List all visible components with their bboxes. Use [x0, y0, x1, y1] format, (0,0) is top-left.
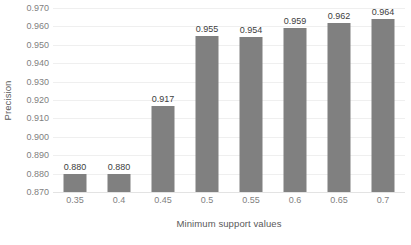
bar[interactable] [240, 37, 263, 192]
x-axis-tick-label: 0.4 [113, 195, 126, 205]
bar-value-label: 0.880 [108, 162, 131, 172]
y-axis-title: Precision [0, 0, 16, 200]
bar[interactable] [108, 174, 131, 192]
bar-group[interactable]: 0.880 [97, 8, 141, 192]
bar-group[interactable]: 0.954 [229, 8, 273, 192]
bar-group[interactable]: 0.917 [141, 8, 185, 192]
bar[interactable] [64, 174, 87, 192]
bar-value-label: 0.917 [152, 94, 175, 104]
y-axis-tick-label: 0.920 [15, 96, 49, 105]
y-axis-tick-label: 0.910 [15, 114, 49, 123]
bar-group[interactable]: 0.880 [53, 8, 97, 192]
bar[interactable] [152, 106, 175, 192]
bar[interactable] [328, 23, 351, 192]
bar-value-label: 0.962 [328, 11, 351, 21]
bar-value-label: 0.955 [196, 24, 219, 34]
y-axis-tick-label: 0.930 [15, 77, 49, 86]
x-axis-tick-label: 0.6 [289, 195, 302, 205]
plot-area: 0.8800.8800.9170.9550.9540.9590.9620.964 [53, 8, 405, 192]
x-axis-tick-label: 0.35 [66, 195, 84, 205]
bar-value-label: 0.959 [284, 16, 307, 26]
bar-chart: Precision 0.9700.9600.9500.9400.9300.920… [0, 0, 411, 245]
x-axis-tick-label: 0.5 [201, 195, 214, 205]
y-axis-tick-label: 0.900 [15, 132, 49, 141]
bars-layer: 0.8800.8800.9170.9550.9540.9590.9620.964 [53, 8, 405, 192]
x-axis-tick-label: 0.55 [242, 195, 260, 205]
x-axis-tick-label: 0.7 [377, 195, 390, 205]
y-axis-tick-label: 0.970 [15, 4, 49, 13]
x-axis-tick-label: 0.65 [330, 195, 348, 205]
bar-group[interactable]: 0.964 [361, 8, 405, 192]
y-axis-tick-label: 0.950 [15, 40, 49, 49]
y-axis-tick-label: 0.960 [15, 22, 49, 31]
bar[interactable] [372, 19, 395, 192]
y-axis-tick-label: 0.880 [15, 169, 49, 178]
x-axis-tick-labels: 0.350.40.450.50.550.60.650.7 [53, 195, 405, 211]
bar[interactable] [284, 28, 307, 192]
y-axis-title-label: Precision [3, 80, 14, 120]
y-axis-tick-label: 0.890 [15, 151, 49, 160]
bar-value-label: 0.964 [372, 7, 395, 17]
gridline [53, 192, 405, 193]
x-axis-title: Minimum support values [53, 218, 405, 229]
y-axis-tick-label: 0.870 [15, 188, 49, 197]
x-axis-tick-label: 0.45 [154, 195, 172, 205]
bar[interactable] [196, 36, 219, 192]
bar-value-label: 0.880 [64, 162, 87, 172]
bar-group[interactable]: 0.955 [185, 8, 229, 192]
x-axis-title-label: Minimum support values [176, 218, 281, 229]
y-axis-tick-labels: 0.9700.9600.9500.9400.9300.9200.9100.900… [16, 8, 52, 192]
bar-value-label: 0.954 [240, 25, 263, 35]
bar-group[interactable]: 0.962 [317, 8, 361, 192]
y-axis-tick-label: 0.940 [15, 59, 49, 68]
bar-group[interactable]: 0.959 [273, 8, 317, 192]
